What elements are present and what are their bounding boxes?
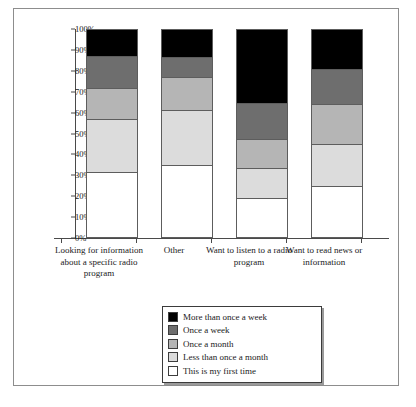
- x-axis-tick-mark: [211, 238, 212, 243]
- x-axis-tick-mark: [61, 238, 62, 243]
- bar-segment: [236, 168, 288, 198]
- figure-container: 0%10%20%30%40%50%60%70%80%90%100% Lookin…: [0, 0, 416, 407]
- bar-segment: [86, 29, 138, 56]
- legend-item-label: Once a week: [183, 325, 229, 335]
- stacked-bar: [236, 29, 288, 238]
- x-axis-line: [54, 238, 389, 239]
- legend-item: Less than once a month: [168, 351, 316, 365]
- bar-segment: [311, 69, 363, 105]
- bar-segment: [161, 57, 213, 77]
- bar-segment: [311, 186, 363, 238]
- plot-area: [75, 29, 375, 238]
- bar-segment: [86, 56, 138, 87]
- legend-item: Once a week: [168, 324, 316, 338]
- legend-item-label: More than once a week: [183, 312, 267, 322]
- legend-swatch-icon: [168, 312, 178, 322]
- stacked-bar: [86, 29, 138, 238]
- bar-segment: [311, 104, 363, 144]
- bar-segment: [311, 144, 363, 186]
- stacked-bar: [161, 29, 213, 238]
- bar-segment: [161, 29, 213, 57]
- legend-item-label: Once a month: [183, 339, 233, 349]
- bar-segment: [161, 110, 213, 164]
- bar-segment: [86, 119, 138, 172]
- legend-swatch-icon: [168, 366, 178, 376]
- bar-segment: [236, 198, 288, 238]
- bar-segment: [236, 139, 288, 168]
- legend-swatch-icon: [168, 352, 178, 362]
- bar-segment: [161, 77, 213, 110]
- chart-plate: 0%10%20%30%40%50%60%70%80%90%100% Lookin…: [13, 8, 399, 386]
- legend-item-label: Less than once a month: [183, 352, 268, 362]
- stacked-bar: [311, 29, 363, 238]
- legend-item: More than once a week: [168, 310, 316, 324]
- chart-legend: More than once a weekOnce a weekOnce a m…: [162, 306, 322, 383]
- bar-segment: [311, 29, 363, 69]
- legend-swatch-icon: [168, 339, 178, 349]
- x-axis-category-label: Want to read news or information: [276, 245, 372, 268]
- bar-segment: [236, 103, 288, 139]
- x-axis-tick-mark: [136, 238, 137, 243]
- bar-segment: [86, 172, 138, 238]
- x-axis-tick-mark: [286, 238, 287, 243]
- legend-item: This is my first time: [168, 364, 316, 378]
- bar-segment: [236, 29, 288, 103]
- x-axis-tick-mark: [361, 238, 362, 243]
- legend-item: Once a month: [168, 337, 316, 351]
- legend-swatch-icon: [168, 325, 178, 335]
- bar-segment: [161, 165, 213, 238]
- legend-item-label: This is my first time: [183, 366, 256, 376]
- bar-segment: [86, 88, 138, 119]
